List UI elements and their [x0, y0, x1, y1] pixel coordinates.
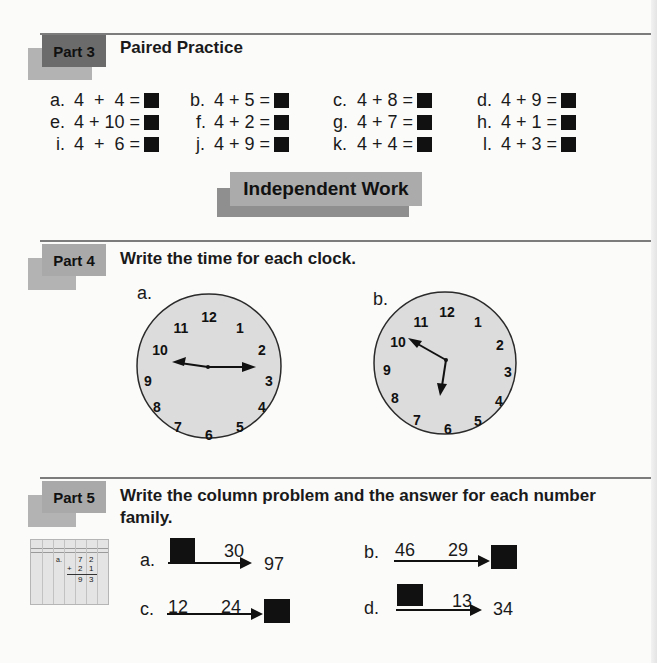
- problem-label: k.: [333, 134, 357, 155]
- problem-label: d.: [477, 90, 501, 111]
- family-arrow: [167, 613, 261, 615]
- problem-label: b.: [190, 90, 214, 111]
- part4-rule: [40, 240, 657, 242]
- problem-expression: 4 + 10 =: [74, 112, 140, 133]
- column-example: a. 7 2 + 2 1 9 3: [30, 539, 109, 605]
- family-label: c.: [140, 599, 154, 620]
- answer-blank[interactable]: [417, 93, 432, 108]
- second-number: 29: [448, 540, 468, 561]
- part4-tag: Part 4: [42, 244, 106, 276]
- svg-text:1: 1: [236, 320, 244, 336]
- svg-text:12: 12: [201, 309, 217, 325]
- example-digit: 3: [89, 575, 93, 584]
- clock-a: 12 1 2 3 4 5 6 7 8 9 10 11: [130, 290, 290, 445]
- svg-text:12: 12: [439, 304, 455, 320]
- answer-blank[interactable]: [274, 137, 289, 152]
- problem-l: l.4 + 3 =: [483, 134, 576, 155]
- example-digit: 2: [78, 564, 82, 573]
- answer-blank[interactable]: [561, 137, 576, 152]
- problem-expression: 4 + 6 =: [74, 134, 140, 155]
- answer-blank[interactable]: [274, 93, 289, 108]
- answer-blank[interactable]: [144, 137, 159, 152]
- example-digit: 2: [89, 555, 93, 564]
- problem-expression: 4 + 3 =: [501, 134, 557, 155]
- independent-work-banner: Independent Work: [230, 172, 422, 206]
- svg-text:7: 7: [174, 419, 182, 435]
- svg-text:2: 2: [258, 342, 266, 358]
- family-arrow: [168, 562, 250, 564]
- svg-text:5: 5: [474, 413, 482, 429]
- example-label: a.: [56, 556, 62, 563]
- svg-text:8: 8: [153, 399, 161, 415]
- family-arrow: [396, 609, 480, 611]
- total-number: 97: [264, 554, 284, 575]
- svg-text:1: 1: [474, 314, 482, 330]
- problem-label: e.: [50, 112, 74, 133]
- svg-text:9: 9: [383, 362, 391, 378]
- example-digit: 9: [78, 575, 82, 584]
- problem-label: g.: [333, 112, 357, 133]
- svg-text:4: 4: [495, 393, 503, 409]
- clock-b: 12 1 2 3 4 5 6 7 8 9 10 11: [368, 287, 528, 442]
- problem-i: i.4 + 6 =: [56, 134, 159, 155]
- answer-blank[interactable]: [144, 115, 159, 130]
- problem-label: j.: [196, 134, 214, 155]
- problem-expression: 4 + 2 =: [214, 112, 270, 133]
- page-edge: [651, 0, 657, 663]
- part5-rule: [40, 477, 657, 479]
- answer-blank[interactable]: [144, 93, 159, 108]
- part3-rule: [40, 33, 657, 35]
- svg-text:5: 5: [236, 419, 244, 435]
- problem-expression: 4 + 9 =: [214, 134, 270, 155]
- svg-text:6: 6: [205, 427, 213, 443]
- first-number-blank[interactable]: [170, 538, 195, 562]
- problem-expression: 4 + 5 =: [214, 90, 270, 111]
- part3-tag: Part 3: [42, 35, 106, 67]
- answer-blank[interactable]: [561, 115, 576, 130]
- problem-label: i.: [56, 134, 74, 155]
- example-digit: 7: [78, 555, 82, 564]
- part4-title: Write the time for each clock.: [120, 249, 356, 269]
- first-number: 46: [395, 540, 415, 561]
- answer-blank[interactable]: [417, 137, 432, 152]
- answer-blank[interactable]: [274, 115, 289, 130]
- problem-k: k.4 + 4 =: [333, 134, 432, 155]
- problem-label: c.: [333, 90, 357, 111]
- part3-title: Paired Practice: [120, 38, 243, 58]
- svg-text:2: 2: [496, 337, 504, 353]
- problem-g: g.4 + 7 =: [333, 112, 432, 133]
- problem-b: b.4 + 5 =: [190, 90, 289, 111]
- problem-h: h.4 + 1 =: [477, 112, 576, 133]
- answer-blank[interactable]: [561, 93, 576, 108]
- problem-label: l.: [483, 134, 501, 155]
- part5-title-line1: Write the column problem and the answer …: [120, 486, 596, 506]
- family-label: a.: [140, 550, 155, 571]
- problem-label: f.: [196, 112, 214, 133]
- problem-f: f.4 + 2 =: [196, 112, 289, 133]
- svg-text:11: 11: [174, 320, 189, 336]
- svg-text:4: 4: [258, 399, 266, 415]
- family-arrow: [394, 560, 488, 562]
- problem-expression: 4 + 9 =: [501, 90, 557, 111]
- problem-c: c.4 + 8 =: [333, 90, 432, 111]
- svg-text:10: 10: [390, 334, 406, 350]
- problem-label: h.: [477, 112, 501, 133]
- total-number: 34: [493, 599, 513, 620]
- problem-e: e.4 + 10 =: [50, 112, 159, 133]
- svg-text:10: 10: [152, 342, 168, 358]
- answer-blank[interactable]: [417, 115, 432, 130]
- first-number-blank[interactable]: [397, 584, 423, 606]
- family-label: d.: [364, 598, 379, 619]
- family-label: b.: [364, 542, 379, 563]
- total-blank[interactable]: [264, 599, 290, 623]
- svg-text:6: 6: [444, 421, 452, 437]
- example-digit: +: [67, 564, 72, 573]
- problem-label: a.: [50, 90, 74, 111]
- part5-title-line2: family.: [120, 508, 173, 528]
- problem-expression: 4 + 4 =: [74, 90, 140, 111]
- problem-d: d.4 + 9 =: [477, 90, 576, 111]
- total-blank[interactable]: [491, 545, 517, 569]
- svg-text:8: 8: [391, 390, 399, 406]
- svg-text:3: 3: [504, 364, 512, 380]
- svg-text:11: 11: [414, 314, 429, 330]
